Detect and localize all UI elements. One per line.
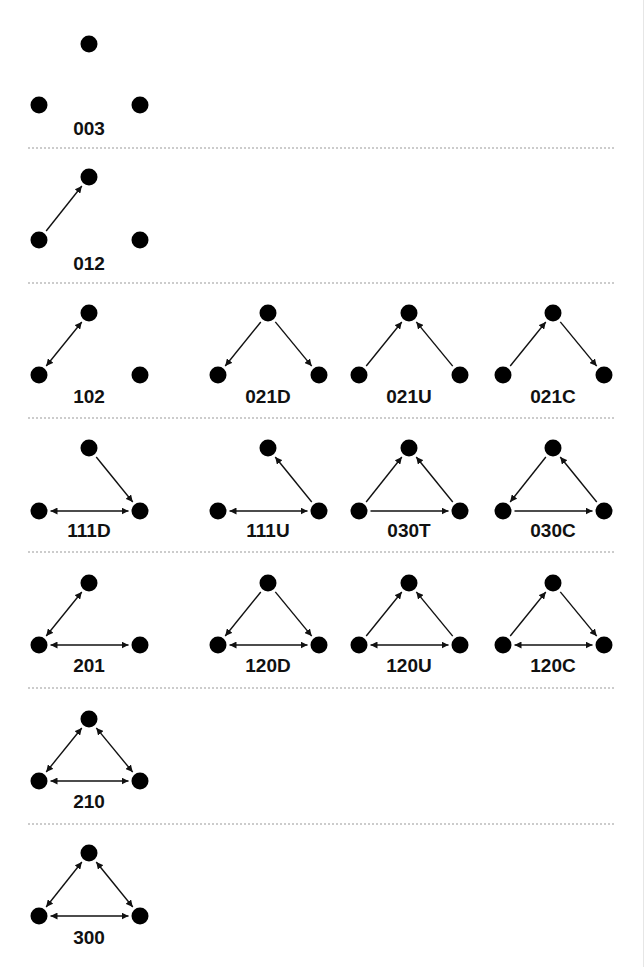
node-top xyxy=(260,440,277,457)
triad-111d: 111D xyxy=(31,440,149,542)
node-left xyxy=(495,503,512,520)
node-left xyxy=(351,637,368,654)
directed-edge-arrow xyxy=(366,322,402,366)
triad-021d: 021D xyxy=(210,305,328,408)
triad-120c: 120C xyxy=(495,575,613,677)
triad-label: 120C xyxy=(530,655,576,676)
node-right xyxy=(132,367,149,384)
triad-label: 111U xyxy=(246,520,289,541)
triad-label: 021D xyxy=(245,386,290,407)
triad-label: 120D xyxy=(245,655,290,676)
triad-021u: 021U xyxy=(351,305,469,408)
triad-label: 021C xyxy=(530,386,576,407)
node-right xyxy=(452,637,469,654)
node-right xyxy=(132,773,149,790)
node-top xyxy=(260,575,277,592)
directed-edge-arrow xyxy=(560,457,597,502)
node-right xyxy=(596,367,613,384)
directed-edge-arrow xyxy=(366,457,402,502)
directed-edge-arrow xyxy=(366,592,402,636)
node-right xyxy=(311,637,328,654)
triad-label: 102 xyxy=(73,386,105,407)
triad-210: 210 xyxy=(31,711,149,813)
mutual-edge-arrow xyxy=(96,728,132,772)
node-left xyxy=(495,367,512,384)
triad-003: 003 xyxy=(31,36,149,140)
directed-edge-arrow xyxy=(275,592,311,636)
triad-label: 030T xyxy=(387,520,431,541)
node-right xyxy=(311,503,328,520)
node-top xyxy=(81,845,98,862)
directed-edge-arrow xyxy=(275,457,312,502)
triad-012: 012 xyxy=(31,169,149,275)
node-right xyxy=(132,503,149,520)
node-top xyxy=(81,169,98,186)
directed-edge-arrow xyxy=(560,592,596,636)
node-left xyxy=(31,97,48,114)
node-left xyxy=(31,367,48,384)
triad-label: 012 xyxy=(73,253,105,274)
directed-edge-arrow xyxy=(225,322,261,366)
node-left xyxy=(495,637,512,654)
node-left xyxy=(31,503,48,520)
node-top xyxy=(545,305,562,322)
node-left xyxy=(210,503,227,520)
triad-120u: 120U xyxy=(351,575,469,677)
node-left xyxy=(31,637,48,654)
node-left xyxy=(31,908,48,925)
node-top xyxy=(545,575,562,592)
mutual-edge-arrow xyxy=(96,862,133,907)
node-left xyxy=(31,773,48,790)
node-top xyxy=(401,305,418,322)
directed-edge-arrow xyxy=(510,322,546,366)
triad-label: 210 xyxy=(73,791,105,812)
directed-edge-arrow xyxy=(560,322,596,366)
directed-edge-arrow xyxy=(416,457,453,502)
triad-census-diagram: 003012102021D021U021C111D111U030T030C201… xyxy=(0,0,644,967)
directed-edge-arrow xyxy=(275,322,311,366)
node-top xyxy=(81,711,98,728)
directed-edge-arrow xyxy=(416,592,452,636)
mutual-edge-arrow xyxy=(46,728,82,772)
node-top xyxy=(545,440,562,457)
triad-102: 102 xyxy=(31,305,149,408)
triad-030t: 030T xyxy=(351,440,469,542)
node-right xyxy=(311,367,328,384)
node-left xyxy=(210,367,227,384)
triad-label: 120U xyxy=(386,655,431,676)
node-right xyxy=(452,367,469,384)
node-right xyxy=(596,503,613,520)
directed-edge-arrow xyxy=(416,322,452,366)
node-top xyxy=(81,36,98,53)
triad-120d: 120D xyxy=(210,575,328,677)
triad-grid: 003012102021D021U021C111D111U030T030C201… xyxy=(31,36,613,949)
triad-300: 300 xyxy=(31,845,149,949)
node-left xyxy=(31,232,48,249)
node-left xyxy=(210,637,227,654)
node-top xyxy=(401,440,418,457)
triad-201: 201 xyxy=(31,575,149,677)
mutual-edge-arrow xyxy=(46,322,82,366)
node-right xyxy=(132,232,149,249)
node-top xyxy=(81,305,98,322)
triad-label: 021U xyxy=(386,386,431,407)
mutual-edge-arrow xyxy=(46,862,82,907)
node-top xyxy=(260,305,277,322)
node-top xyxy=(81,575,98,592)
mutual-edge-arrow xyxy=(46,592,82,636)
triad-021c: 021C xyxy=(495,305,613,408)
directed-edge-arrow xyxy=(225,592,261,636)
triad-label: 201 xyxy=(73,655,105,676)
node-left xyxy=(351,503,368,520)
triad-label: 003 xyxy=(73,118,105,139)
node-right xyxy=(132,97,149,114)
node-top xyxy=(401,575,418,592)
directed-edge-arrow xyxy=(46,186,82,231)
node-top xyxy=(81,440,98,457)
node-right xyxy=(452,503,469,520)
triad-label: 030C xyxy=(530,520,576,541)
node-right xyxy=(132,637,149,654)
node-left xyxy=(351,367,368,384)
directed-edge-arrow xyxy=(96,457,133,502)
triad-label: 300 xyxy=(73,927,105,948)
